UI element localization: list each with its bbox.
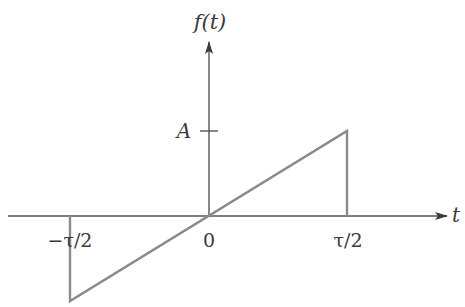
tick-label-pos-tau-half: τ/2 [333, 229, 362, 251]
sawtooth-pulse-diagram: f(t) t A −τ/2 0 τ/2 [0, 0, 465, 307]
amplitude-label: A [175, 119, 191, 143]
x-axis-label: t [452, 203, 461, 227]
tick-label-zero: 0 [203, 229, 215, 251]
diagram-canvas: f(t) t A −τ/2 0 τ/2 [0, 0, 465, 307]
tick-label-neg-tau-half: −τ/2 [48, 229, 93, 251]
y-axis-label: f(t) [192, 10, 227, 34]
